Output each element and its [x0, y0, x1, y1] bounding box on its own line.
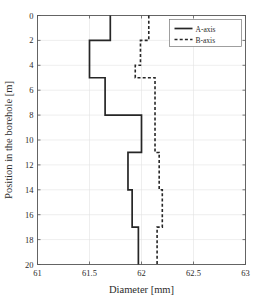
x-tick-label: 62.5 [186, 268, 201, 278]
borehole-diameter-chart: 6161.56262.563 02468101214161820 Diamete… [0, 0, 266, 308]
y-tick-label: 12 [25, 160, 34, 170]
y-tick-label: 8 [29, 110, 33, 120]
x-tick-label: 61 [33, 268, 42, 278]
y-tick-label: 16 [25, 210, 34, 220]
x-axis-title: Diameter [mm] [109, 284, 174, 295]
y-axis-title: Position in the borehole [m] [3, 81, 14, 199]
y-tick-label: 2 [29, 35, 33, 45]
chart-legend[interactable]: A-axisB-axis [170, 20, 242, 47]
y-tick-label: 14 [25, 185, 34, 195]
legend-label: A-axis [196, 25, 216, 34]
legend-label: B-axis [196, 36, 216, 45]
y-tick-label: 6 [29, 85, 33, 95]
x-tick-label: 63 [241, 268, 250, 278]
x-tick-label: 62 [137, 268, 146, 278]
x-tick-labels: 6161.56262.563 [33, 268, 250, 278]
y-tick-labels: 02468101214161820 [25, 11, 34, 270]
y-tick-label: 18 [25, 235, 34, 245]
y-tick-label: 4 [29, 60, 34, 70]
figure-container: 6161.56262.563 02468101214161820 Diamete… [0, 0, 266, 308]
y-tick-label: 20 [25, 260, 34, 270]
y-tick-label: 0 [29, 11, 33, 21]
y-tick-label: 10 [25, 135, 34, 145]
x-tick-label: 61.5 [82, 268, 97, 278]
